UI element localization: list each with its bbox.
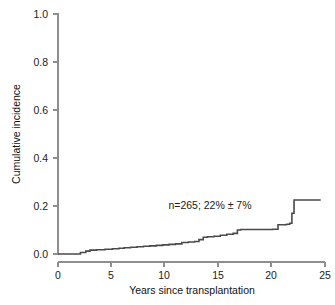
x-axis-tick-labels: 0 5 10 15 20 25 [55,269,331,281]
y-axis-title: Cumulative incidence [10,84,22,184]
x-tick-label: 20 [265,269,277,281]
y-tick-label: 0.0 [33,248,48,260]
y-tick-label: 0.4 [33,152,48,164]
y-tick-label: 0.6 [33,104,48,116]
figure-container: 1.0 0.8 0.6 0.4 0.2 0.0 0 5 10 15 20 25 … [0,0,335,305]
x-axis-title: Years since transplantation [129,284,255,296]
y-axis-ticks [53,14,58,254]
x-tick-label: 5 [108,269,114,281]
x-axis-ticks [58,262,325,267]
annotation-label: n=265; 22% ± 7% [168,199,251,211]
y-tick-label: 0.8 [33,56,48,68]
x-tick-label: 25 [319,269,331,281]
x-tick-label: 15 [212,269,224,281]
cumulative-incidence-chart: 1.0 0.8 0.6 0.4 0.2 0.0 0 5 10 15 20 25 … [0,0,335,305]
x-tick-label: 0 [55,269,61,281]
y-axis-tick-labels: 1.0 0.8 0.6 0.4 0.2 0.0 [33,8,48,260]
y-tick-label: 0.2 [33,200,48,212]
x-tick-label: 10 [158,269,170,281]
y-tick-label: 1.0 [33,8,48,20]
